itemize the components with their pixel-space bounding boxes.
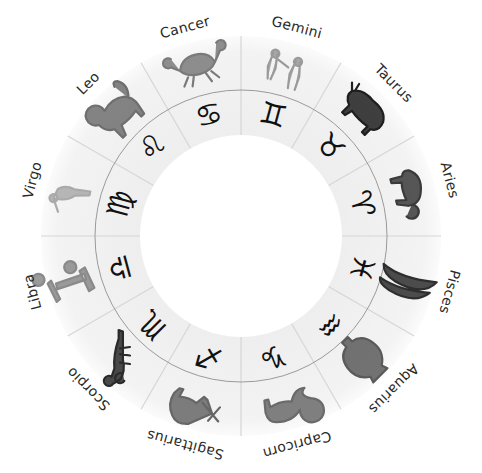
- zodiac-wheel: [0, 0, 482, 473]
- center-disc: [140, 135, 342, 337]
